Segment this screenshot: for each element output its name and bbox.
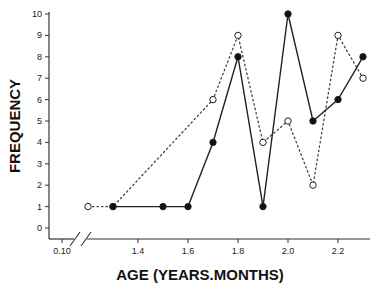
open-data-point (260, 139, 266, 145)
filled-data-point (235, 54, 241, 60)
y-tick-label: 0 (37, 223, 42, 233)
open-data-point (210, 96, 216, 102)
y-tick-label: 6 (37, 95, 42, 105)
open-data-point (335, 32, 341, 38)
x-tick-label: 0.10 (53, 246, 71, 256)
y-tick-label: 3 (37, 159, 42, 169)
y-tick-label: 2 (37, 180, 42, 190)
y-axis-title: FREQUENCY (6, 79, 23, 173)
filled-data-point (160, 203, 166, 209)
open-data-point (310, 182, 316, 188)
y-tick-label: 1 (37, 202, 42, 212)
series-filled-circles (110, 11, 366, 210)
filled-data-point (260, 203, 266, 209)
filled-data-point (110, 203, 116, 209)
y-tick-label: 7 (37, 73, 42, 83)
open-data-point (360, 75, 366, 81)
filled-data-point (185, 203, 191, 209)
filled-data-point (310, 118, 316, 124)
x-axis-title: AGE (YEARS.MONTHS) (116, 266, 284, 283)
y-axis: 012345678910 (32, 9, 49, 239)
open-data-point (235, 32, 241, 38)
open-data-point (85, 203, 91, 209)
x-tick-label: 1.4 (132, 246, 145, 256)
x-tick-label: 1.8 (232, 246, 245, 256)
y-tick-label: 4 (37, 137, 42, 147)
filled-data-point (360, 54, 366, 60)
filled-data-point (285, 11, 291, 17)
filled-data-point (335, 96, 341, 102)
x-tick-label: 1.6 (182, 246, 195, 256)
x-tick-label: 2.2 (332, 246, 345, 256)
y-tick-label: 10 (32, 9, 42, 19)
y-tick-label: 8 (37, 52, 42, 62)
open-data-point (285, 118, 291, 124)
x-tick-label: 2.0 (282, 246, 295, 256)
y-tick-label: 9 (37, 30, 42, 40)
x-axis: 0.101.41.61.82.02.2 (49, 232, 370, 256)
series-open-circles (85, 32, 366, 210)
y-tick-label: 5 (37, 116, 42, 126)
filled-data-point (210, 139, 216, 145)
line-chart: 012345678910 0.101.41.61.82.02.2 FREQUEN… (0, 0, 374, 293)
